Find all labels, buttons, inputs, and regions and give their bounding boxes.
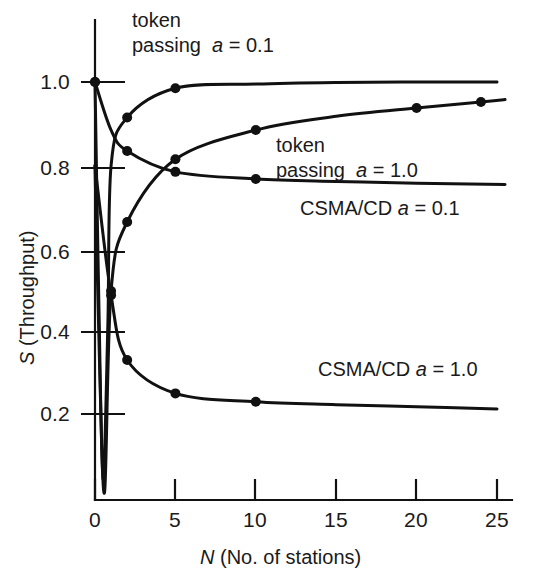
x-tick-label-10: 10 bbox=[235, 508, 275, 532]
data-point-marker bbox=[122, 146, 132, 156]
x-tick-label-5: 5 bbox=[155, 508, 195, 532]
x-axis-title: N (No. of stations) bbox=[200, 546, 361, 569]
y-tick-label-0-8: 0.8 bbox=[18, 156, 70, 180]
data-point-marker bbox=[90, 77, 100, 87]
data-point-marker bbox=[251, 174, 261, 184]
data-point-marker bbox=[476, 97, 486, 107]
x-tick-marks bbox=[95, 479, 497, 500]
curve-label-csma-cd-a-1-0: CSMA/CD a = 1.0 bbox=[318, 357, 478, 382]
curve-label-token-passing-a-1-0: tokenpassing a = 1.0 bbox=[276, 133, 418, 183]
x-tick-label-25: 25 bbox=[477, 508, 517, 532]
data-point-marker bbox=[170, 388, 180, 398]
plot-canvas bbox=[0, 0, 559, 582]
data-point-marker bbox=[170, 83, 180, 93]
y-tick-label-1-0: 1.0 bbox=[18, 70, 70, 94]
x-tick-label-0: 0 bbox=[75, 508, 115, 532]
data-point-marker bbox=[170, 167, 180, 177]
throughput-chart-figure: 1.0 0.8 0.6 0.4 0.2 0 5 10 15 20 25 S (T… bbox=[0, 0, 559, 582]
data-point-marker bbox=[122, 355, 132, 365]
data-point-marker bbox=[170, 154, 180, 164]
x-tick-label-15: 15 bbox=[316, 508, 356, 532]
data-point-marker bbox=[106, 290, 116, 300]
x-tick-label-20: 20 bbox=[396, 508, 436, 532]
y-axis-title: S (Throughput) bbox=[16, 230, 39, 365]
data-point-marker bbox=[412, 103, 422, 113]
data-point-marker bbox=[122, 113, 132, 123]
curve-label-csma-cd-a-0-1: CSMA/CD a = 0.1 bbox=[300, 196, 460, 221]
curve-label-token-passing-a-0-1: tokenpassing a = 0.1 bbox=[132, 8, 274, 58]
y-tick-label-0-2: 0.2 bbox=[18, 402, 70, 426]
axes-group bbox=[95, 20, 512, 500]
data-point-marker bbox=[251, 125, 261, 135]
data-point-marker bbox=[251, 397, 261, 407]
data-point-marker bbox=[122, 217, 132, 227]
